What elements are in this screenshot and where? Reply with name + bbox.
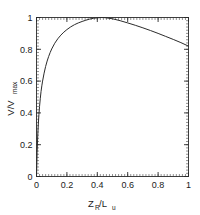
x-tick-label: 0.4 [91,180,104,190]
y-axis-title-main: V/V [5,100,16,116]
x-tick-label: 0.2 [61,180,74,190]
y-tick-label: 0.6 [20,76,33,86]
chart-canvas: 00.20.40.60.81 00.20.40.60.81 Z R /L u V… [0,0,200,215]
x-axis-title-sub-u: u [112,204,116,211]
y-tick-label: 0.4 [20,108,33,118]
x-tick-label: 0.8 [152,180,165,190]
x-axis-title-slash-l: /L [99,198,107,209]
y-tick-label: 0.2 [20,140,33,150]
x-tick-label: 1 [186,180,191,190]
y-axis-title-sub-max: max [11,81,18,94]
x-axis-title-main: Z [88,198,94,209]
y-tick-label: 0.8 [20,45,33,55]
y-tick-label: 0 [27,172,32,182]
figure-container: 00.20.40.60.81 00.20.40.60.81 Z R /L u V… [0,0,200,215]
x-tick-label: 0 [34,180,39,190]
x-tick-label: 0.6 [121,180,134,190]
y-tick-label: 1 [27,13,32,23]
